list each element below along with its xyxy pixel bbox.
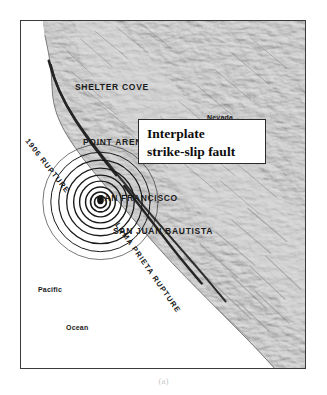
- city-label-san-francisco: SAN FRANCISCO: [98, 194, 178, 203]
- city-label-shelter-cove: SHELTER COVE: [75, 83, 149, 92]
- figure-container: SHELTER COVE POINT ARENA SAN FRANCISCO S…: [0, 0, 327, 395]
- ocean-label-ocean: Ocean: [66, 324, 88, 331]
- callout-line-1: Interplate: [147, 125, 265, 143]
- map-frame: SHELTER COVE POINT ARENA SAN FRANCISCO S…: [20, 20, 306, 369]
- figure-subcaption: (a): [0, 376, 327, 386]
- callout-box: Interplate strike-slip fault: [138, 119, 266, 164]
- callout-line-2: strike-slip fault: [147, 143, 265, 161]
- ocean-label-pacific: Pacific: [38, 286, 62, 293]
